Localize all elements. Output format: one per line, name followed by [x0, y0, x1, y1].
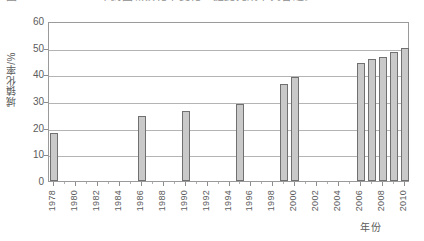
x-axis-minor-tick-mark [64, 182, 65, 184]
x-axis-minor-tick-mark [239, 182, 240, 184]
urbanization-rate-bar-chart: 城镇化率/% 0102030405060 1978198019821984198… [0, 0, 424, 241]
x-axis-tick-mark [294, 182, 295, 186]
bars-layer [49, 23, 408, 181]
bar [291, 77, 299, 181]
bar [401, 48, 409, 181]
x-axis-minor-tick-mark [283, 182, 284, 184]
x-axis-tick-mark [316, 182, 317, 186]
y-axis-tick-label: 50 [14, 44, 44, 54]
x-axis-minor-tick-mark [130, 182, 131, 184]
bar [182, 111, 190, 181]
x-axis-tick-mark [97, 182, 98, 186]
x-axis-tick-label: 1998 [267, 190, 276, 211]
bar [236, 104, 244, 181]
bar [379, 57, 387, 181]
x-axis-title: 年份 [360, 222, 381, 233]
x-axis-tick-mark [250, 182, 251, 186]
x-axis-tick-label: 2006 [355, 190, 364, 211]
bar [280, 84, 288, 181]
x-axis-tick-label: 1996 [245, 190, 254, 211]
x-axis-minor-tick-mark [152, 182, 153, 184]
x-axis-minor-tick-mark [108, 182, 109, 184]
x-axis-minor-tick-mark [218, 182, 219, 184]
x-axis-tick-label: 1992 [202, 190, 211, 211]
x-axis-minor-tick-mark [174, 182, 175, 184]
x-axis-tick-mark [75, 182, 76, 186]
x-axis-minor-tick-mark [196, 182, 197, 184]
x-axis-tick-mark [163, 182, 164, 186]
bar [357, 63, 365, 181]
x-axis-tick-label: 1994 [224, 190, 233, 211]
y-axis-tick-label: 60 [14, 17, 44, 27]
x-axis-tick-mark [119, 182, 120, 186]
x-axis-tick-mark [382, 182, 383, 186]
x-axis-tick-mark [53, 182, 54, 186]
x-axis-tick-mark [338, 182, 339, 186]
x-axis-minor-tick-mark [261, 182, 262, 184]
x-axis-minor-tick-mark [393, 182, 394, 184]
x-axis-tick-label: 1990 [180, 190, 189, 211]
x-axis-minor-tick-mark [86, 182, 87, 184]
bar [368, 59, 376, 181]
x-axis-minor-tick-mark [349, 182, 350, 184]
x-axis-tick-label: 2004 [333, 190, 342, 211]
x-axis-minor-tick-mark [327, 182, 328, 184]
bar [138, 116, 146, 181]
x-axis-tick-label: 2010 [399, 190, 408, 211]
x-axis-tick-mark [229, 182, 230, 186]
x-axis-tick-mark [272, 182, 273, 186]
x-axis-tick-label: 2008 [377, 190, 386, 211]
y-axis-tick-label: 10 [14, 150, 44, 160]
x-axis-tick-label: 2002 [311, 190, 320, 211]
y-axis-tick-label: 30 [14, 97, 44, 107]
x-axis-tick-label: 1978 [48, 190, 57, 211]
y-axis-tick-label: 0 [14, 177, 44, 187]
y-axis-tick-label: 20 [14, 124, 44, 134]
x-axis-tick-label: 2000 [289, 190, 298, 211]
x-axis-tick-mark [404, 182, 405, 186]
x-axis-tick-label: 1988 [158, 190, 167, 211]
x-axis-tick-label: 1986 [136, 190, 145, 211]
x-axis-minor-tick-mark [305, 182, 306, 184]
x-axis-tick-label: 1980 [70, 190, 79, 211]
x-axis-tick-mark [141, 182, 142, 186]
x-axis-tick-mark [360, 182, 361, 186]
x-axis-tick-label: 1984 [114, 190, 123, 211]
bar [390, 52, 398, 181]
x-axis-tick-mark [207, 182, 208, 186]
y-axis-tick-label: 40 [14, 70, 44, 80]
bar [50, 133, 58, 181]
x-axis-tick-label: 1982 [92, 190, 101, 211]
plot-area [48, 22, 409, 182]
x-axis-minor-tick-mark [371, 182, 372, 184]
x-axis-tick-mark [185, 182, 186, 186]
